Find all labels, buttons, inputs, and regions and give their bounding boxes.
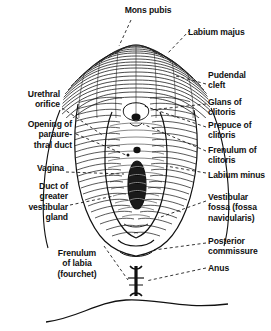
leader-labium-majus bbox=[167, 30, 190, 54]
label-frenulum-of-clitoris: Frenulum of clitoris bbox=[208, 145, 271, 166]
label-glans-of-clitoris: Glans of clitoris bbox=[208, 97, 271, 118]
vaginal-orifice bbox=[128, 161, 146, 209]
label-anus: Anus bbox=[208, 263, 258, 273]
vestibular-fossa bbox=[124, 224, 148, 227]
leader-posterior-commissure bbox=[154, 243, 206, 250]
label-vestibular-fossa: Vestibular fossa (fossa navicularis) bbox=[208, 192, 271, 223]
label-labium-majus: Labium majus bbox=[188, 27, 271, 37]
label-pudendal-cleft: Pudendal cleft bbox=[208, 70, 271, 91]
leader-mons-pubis bbox=[119, 20, 131, 46]
label-mons-pubis: Mons pubis bbox=[108, 5, 188, 15]
glans-of-clitoris bbox=[132, 113, 141, 120]
leader-anus bbox=[146, 268, 206, 281]
label-prepuce-of-clitoris: Prepuce of clitoris bbox=[208, 120, 271, 141]
label-duct-greater-vestibular-gland: Duct of greater vestibular gland bbox=[2, 181, 68, 223]
leader-vestibular-fossa bbox=[158, 201, 206, 218]
anus bbox=[128, 266, 144, 296]
paraurethral-duct-opening bbox=[127, 154, 130, 157]
label-posterior-commissure: Posterior commissure bbox=[208, 236, 271, 257]
label-opening-paraurethral-duct: Opening of paraure- thral duct bbox=[2, 119, 72, 150]
label-urethral-orifice: Urethral orifice bbox=[2, 89, 60, 110]
fourchette-frenulum-of-labia bbox=[118, 240, 154, 246]
label-labium-minus: Labium minus bbox=[208, 170, 271, 180]
label-frenulum-of-labia: Frenulum of labia (fourchet) bbox=[44, 248, 110, 279]
urethral-orifice bbox=[133, 147, 140, 153]
label-vagina: Vagina bbox=[2, 163, 64, 173]
perineum-lower-contour bbox=[46, 300, 228, 322]
frenulum-of-clitoris bbox=[130, 123, 142, 126]
